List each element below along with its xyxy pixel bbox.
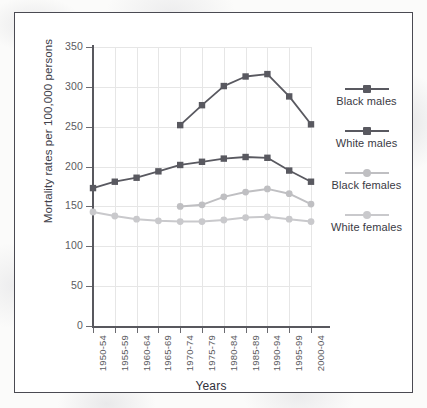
data-point-marker [221,155,227,161]
data-point-marker [220,193,227,200]
data-point-marker [90,209,97,216]
data-point-marker [308,121,314,127]
data-point-marker [177,162,183,168]
data-point-marker [308,218,315,225]
data-point-marker [90,185,96,191]
data-point-marker [155,217,162,224]
series-white-males [90,154,314,191]
data-point-marker [199,201,206,208]
data-point-marker [111,213,118,220]
chart-legend: Black malesWhite malesBlack femalesWhite… [319,83,414,251]
legend-marker-icon [363,127,371,135]
data-point-marker [221,83,227,89]
legend-swatch [319,83,414,94]
legend-swatch [319,167,414,178]
data-point-marker [308,179,314,185]
data-point-marker [264,71,270,77]
data-point-marker [177,218,184,225]
data-point-marker [286,190,293,197]
legend-label: White males [319,137,414,149]
data-point-marker [133,175,139,181]
data-point-marker [286,93,292,99]
data-point-marker [264,213,271,220]
data-point-marker [199,102,205,108]
data-point-marker [199,159,205,165]
legend-swatch [319,125,414,136]
series-black-females [177,185,315,209]
data-point-marker [177,122,183,128]
legend-entry-white-males[interactable]: White males [319,125,414,149]
legend-entry-black-females[interactable]: Black females [319,167,414,191]
legend-marker-icon [363,85,371,93]
data-point-marker [199,218,206,225]
series-white-females [90,209,315,225]
legend-label: Black males [319,95,414,107]
data-point-marker [264,185,271,192]
legend-entry-white-females[interactable]: White females [319,209,414,233]
chart-area: 050100150200250300350 1950-541955-591960… [15,13,412,392]
legend-swatch [319,209,414,220]
chart-frame: 050100150200250300350 1950-541955-591960… [14,12,413,393]
series-black-males [177,71,314,128]
data-point-marker [112,179,118,185]
data-point-marker [155,168,161,174]
data-point-marker [242,154,248,160]
legend-label: White females [319,221,414,233]
legend-marker-icon [363,169,371,177]
legend-marker-icon [363,211,371,219]
data-point-marker [242,73,248,79]
legend-label: Black females [319,179,414,191]
data-point-marker [264,155,270,161]
data-point-marker [242,189,249,196]
data-point-marker [286,167,292,173]
legend-entry-black-males[interactable]: Black males [319,83,414,107]
data-point-marker [177,203,184,210]
data-point-marker [242,214,249,221]
data-point-marker [133,216,140,223]
data-point-marker [286,216,293,223]
data-point-marker [220,217,227,224]
data-point-marker [308,201,315,208]
